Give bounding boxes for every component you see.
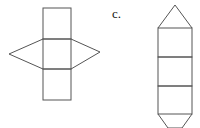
right-triangle [71,39,100,69]
bottom-triangle [158,114,192,128]
figure-label-c: c. [112,6,121,22]
nets-diagram [0,0,200,128]
middle-square [43,39,71,69]
rect-3 [158,86,192,114]
bottom-square [43,69,71,100]
top-square [43,8,71,39]
top-triangle [158,5,192,28]
net-left [9,8,100,100]
rect-2 [158,57,192,86]
rect-1 [158,28,192,57]
net-right [158,5,192,128]
left-triangle [9,39,43,69]
